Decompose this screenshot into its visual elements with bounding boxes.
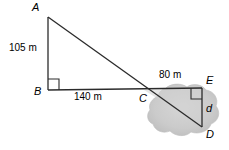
measurement-label-ab: 105 m bbox=[9, 43, 37, 53]
measurement-label-bc: 140 m bbox=[74, 92, 102, 102]
vertex-label-b: B bbox=[34, 86, 41, 97]
vertex-label-d: D bbox=[206, 129, 214, 140]
measurement-label-ed: d bbox=[206, 103, 212, 114]
figure-canvas bbox=[0, 0, 229, 150]
geometry-figure: A B C E D 105 m 140 m 80 m d bbox=[0, 0, 229, 150]
vertex-label-a: A bbox=[32, 2, 39, 13]
vertex-label-e: E bbox=[206, 75, 213, 86]
vertex-label-c: C bbox=[139, 93, 147, 104]
measurement-label-ce: 80 m bbox=[159, 70, 181, 80]
right-angle-mark-b bbox=[48, 79, 59, 90]
